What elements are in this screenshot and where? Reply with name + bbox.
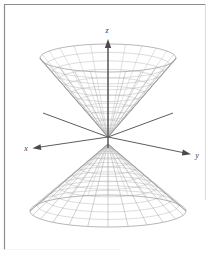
double-cone-diagram: z x y xyxy=(0,0,214,256)
figure-container: z x y xyxy=(0,0,214,256)
y-axis-label: y xyxy=(194,151,199,160)
x-axis-label: x xyxy=(23,144,28,153)
figure-background xyxy=(0,0,214,256)
